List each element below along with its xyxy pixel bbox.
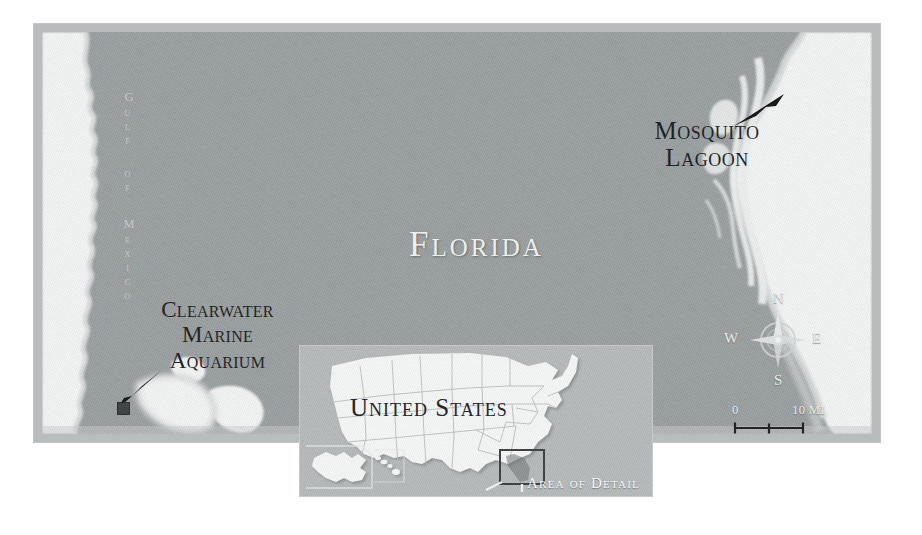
scale-bar: 0 10 MI 0 10 KM xyxy=(730,403,842,434)
compass-west-label: W xyxy=(724,330,738,347)
label-clearwater-marine-aquarium: Clearwater Marine Aquarium xyxy=(130,297,305,373)
page-title: Florida xyxy=(409,225,544,265)
scale-bar-graphic xyxy=(730,420,842,434)
compass-rose: N S W E xyxy=(736,296,820,380)
compass-rose-icon xyxy=(736,296,820,380)
inset-title: United States xyxy=(350,394,508,422)
scale-miles-end: 10 MI xyxy=(792,403,825,418)
scale-km-end: 10 KM xyxy=(764,433,802,434)
compass-north-label: N xyxy=(773,290,784,307)
compass-south-label: S xyxy=(774,372,782,389)
clearwater-pointer-arrow xyxy=(106,368,166,414)
label-gulf-of-mexico: Gulf of Mexico xyxy=(121,90,136,306)
map-figure: Florida Gulf of Mexico Atlantic Ocean Mo… xyxy=(0,0,922,535)
label-clearwater-line2: Marine xyxy=(130,322,305,347)
label-mosquito-lagoon-line2: Lagoon xyxy=(627,144,787,171)
scale-km-start: 0 xyxy=(732,433,739,434)
scale-miles-start: 0 xyxy=(732,403,739,418)
area-of-detail-label: Area of Detail xyxy=(527,475,640,492)
inset-map-united-states: United States Area of Detail xyxy=(300,346,652,496)
compass-east-label: E xyxy=(812,330,821,347)
mosquito-lagoon-pointer-arrow xyxy=(732,92,792,132)
label-clearwater-line1: Clearwater xyxy=(130,297,305,322)
clearwater-location-marker xyxy=(117,402,130,415)
